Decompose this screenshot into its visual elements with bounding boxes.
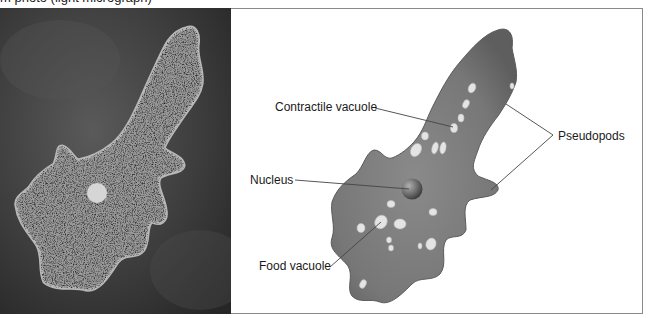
micrograph-nucleus <box>87 183 107 203</box>
micrograph-image <box>0 8 231 314</box>
contractile-vacuole <box>451 124 458 133</box>
label-contractile-vacuole: Contractile vacuole <box>275 100 377 114</box>
figure-caption-fragment: m photo (light micrograph) <box>0 0 240 5</box>
label-pseudopods: Pseudopods <box>558 129 625 143</box>
amoeba-micrograph <box>0 8 231 314</box>
label-food-vacuole: Food vacuole <box>259 259 331 273</box>
label-nucleus: Nucleus <box>250 173 293 187</box>
pseudopods-pointer <box>491 104 553 190</box>
illustration-cell <box>331 29 516 303</box>
